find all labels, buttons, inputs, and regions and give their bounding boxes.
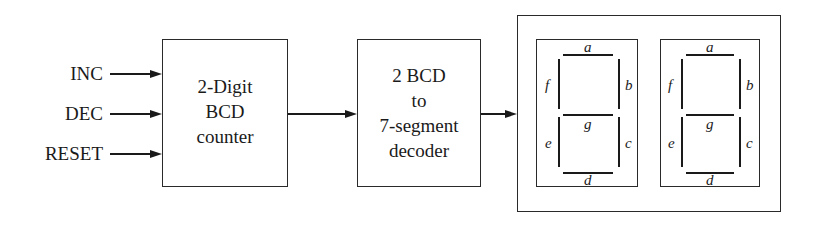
input-line-dec bbox=[110, 113, 152, 115]
segment-e bbox=[558, 117, 560, 167]
decoder-line-2: to bbox=[358, 88, 480, 113]
segment-f-label: f bbox=[668, 78, 672, 93]
segment-c-label: c bbox=[625, 136, 632, 151]
input-label-dec: DEC bbox=[0, 103, 103, 125]
decoder-line-3: 7-segment bbox=[358, 113, 480, 138]
segment-b-label: b bbox=[746, 78, 754, 93]
input-line-reset bbox=[110, 153, 152, 155]
arrowhead-icon bbox=[505, 110, 517, 118]
decoder-block: 2 BCD to 7-segment decoder bbox=[357, 39, 481, 187]
decoder-line-1: 2 BCD bbox=[358, 63, 480, 88]
segment-g-label: g bbox=[706, 117, 714, 132]
segment-c bbox=[739, 117, 741, 167]
segment-e-label: e bbox=[545, 136, 552, 151]
arrowhead-icon bbox=[345, 110, 357, 118]
segment-b bbox=[739, 59, 741, 109]
seven-segment-digit-2: a f b g e c d bbox=[660, 39, 760, 187]
segment-f-label: f bbox=[545, 78, 549, 93]
decoder-line-4: decoder bbox=[358, 138, 480, 163]
arrowhead-icon bbox=[150, 110, 162, 118]
segment-f bbox=[558, 59, 560, 109]
counter-line-1: 2-Digit bbox=[163, 74, 287, 99]
counter-line-2: BCD bbox=[163, 99, 287, 124]
segment-b-label: b bbox=[625, 78, 633, 93]
seven-segment-digit-1: a f b g e c d bbox=[536, 39, 638, 187]
counter-to-decoder-line bbox=[288, 113, 346, 115]
input-line-inc bbox=[110, 73, 152, 75]
input-label-inc: INC bbox=[0, 63, 103, 85]
bcd-counter-label: 2-Digit BCD counter bbox=[163, 74, 287, 149]
segment-e bbox=[681, 117, 683, 167]
segment-d-label: d bbox=[584, 173, 592, 188]
decoder-to-display-line bbox=[481, 113, 506, 115]
segment-b bbox=[618, 59, 620, 109]
segment-d-label: d bbox=[706, 173, 714, 188]
segment-a-label: a bbox=[706, 40, 714, 55]
segment-a-label: a bbox=[584, 40, 592, 55]
counter-line-3: counter bbox=[163, 124, 287, 149]
segment-e-label: e bbox=[668, 136, 675, 151]
arrowhead-icon bbox=[150, 70, 162, 78]
segment-f bbox=[681, 59, 683, 109]
input-label-reset: RESET bbox=[0, 143, 103, 165]
segment-g-label: g bbox=[584, 117, 592, 132]
arrowhead-icon bbox=[150, 150, 162, 158]
decoder-label: 2 BCD to 7-segment decoder bbox=[358, 63, 480, 163]
segment-c bbox=[618, 117, 620, 167]
bcd-counter-block: 2-Digit BCD counter bbox=[162, 39, 288, 187]
segment-c-label: c bbox=[746, 136, 753, 151]
